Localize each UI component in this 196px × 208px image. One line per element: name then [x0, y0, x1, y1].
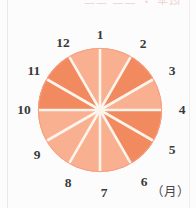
pie-tick-label-10: 10 [17, 103, 31, 117]
pie-tick-label-8: 8 [65, 176, 72, 190]
pie-tick-label-4: 4 [179, 103, 186, 117]
pie-tick-label-11: 11 [28, 64, 41, 78]
figure-page: —— —— ・ 平均 123456789101112 （月） [0, 0, 196, 208]
pie-tick-label-12: 12 [56, 36, 70, 50]
pie-slice-group [38, 48, 162, 172]
pie-tick-label-2: 2 [140, 37, 147, 51]
pie-tick-label-1: 1 [97, 28, 104, 42]
axis-unit-label: （月） [151, 181, 190, 200]
pie-tick-label-6: 6 [141, 175, 148, 189]
pie-tick-label-9: 9 [34, 148, 41, 162]
pie-tick-label-3: 3 [169, 64, 176, 78]
pie-tick-label-5: 5 [169, 143, 176, 157]
pie-chart: 123456789101112 （月） [0, 0, 196, 208]
pie-tick-label-7: 7 [101, 186, 108, 200]
